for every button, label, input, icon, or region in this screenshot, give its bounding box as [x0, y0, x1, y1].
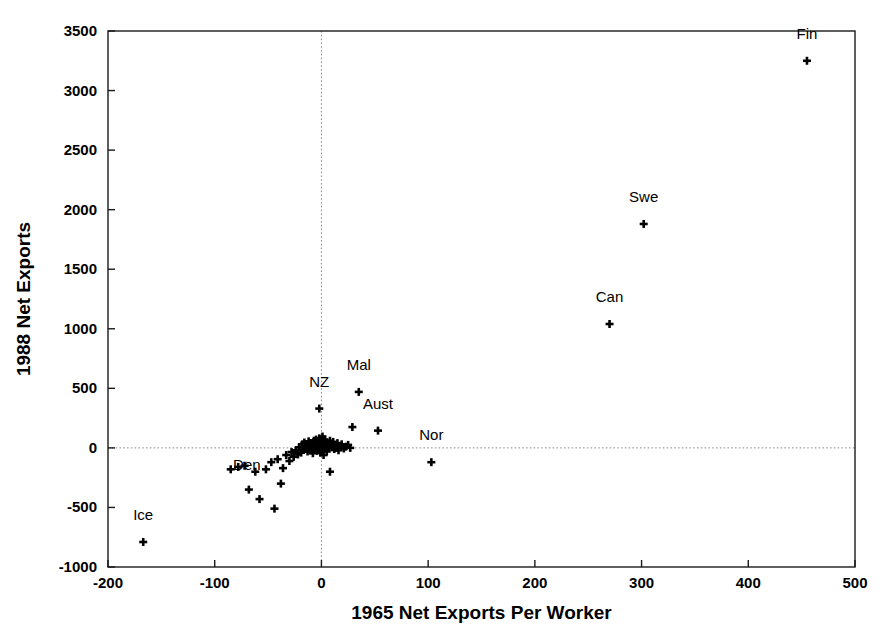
y-tick-label: 3500 — [64, 22, 97, 39]
point-label-can: Can — [596, 288, 624, 305]
x-tick-label: 300 — [629, 574, 654, 591]
point-label-aust: Aust — [363, 395, 394, 412]
y-tick-label: -500 — [67, 498, 97, 515]
y-tick-label: 2000 — [64, 201, 97, 218]
x-tick-label: 400 — [736, 574, 761, 591]
point-label-nz: NZ — [309, 373, 329, 390]
x-tick-label: 0 — [317, 574, 325, 591]
x-tick-label: 200 — [522, 574, 547, 591]
point-label-swe: Swe — [629, 188, 658, 205]
x-axis-title: 1965 Net Exports Per Worker — [351, 602, 612, 623]
x-tick-label: -100 — [200, 574, 230, 591]
chart-canvas: FinSweCanMalNZAustNorDenIce -200-1000100… — [0, 0, 891, 642]
figure-background — [0, 0, 891, 642]
y-axis-title: 1988 Net Exports — [13, 222, 34, 376]
point-label-mal: Mal — [347, 356, 371, 373]
y-tick-label: 500 — [72, 379, 97, 396]
point-label-fin: Fin — [797, 25, 818, 42]
y-tick-label: 1500 — [64, 260, 97, 277]
point-label-den: Den — [233, 456, 261, 473]
x-tick-label: 500 — [842, 574, 867, 591]
x-tick-label: -200 — [93, 574, 123, 591]
scatter-plot-figure: FinSweCanMalNZAustNorDenIce -200-1000100… — [0, 0, 891, 642]
y-tick-label: 1000 — [64, 320, 97, 337]
point-label-nor: Nor — [419, 426, 443, 443]
y-tick-label: -1000 — [59, 558, 97, 575]
x-tick-label: 100 — [416, 574, 441, 591]
y-tick-label: 0 — [89, 439, 97, 456]
y-tick-label: 2500 — [64, 141, 97, 158]
point-label-ice: Ice — [133, 506, 153, 523]
y-tick-label: 3000 — [64, 82, 97, 99]
